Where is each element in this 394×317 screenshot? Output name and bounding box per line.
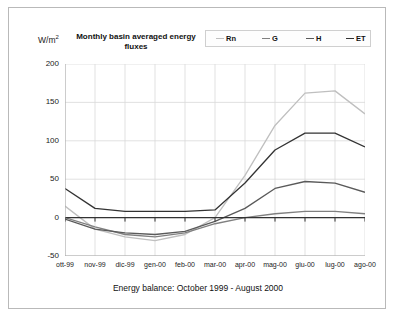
legend-line-icon (216, 38, 224, 39)
y-tick-label: 50 (35, 174, 59, 183)
grid-layer (65, 64, 365, 256)
y-axis-unit-label: W/m2 (38, 34, 59, 45)
x-tick-label: apr-00 (235, 261, 255, 268)
x-tick-label: nov-99 (84, 261, 105, 268)
legend-item-g[interactable]: G (262, 34, 278, 45)
legend-item-label: Rn (226, 34, 236, 43)
y-axis-unit-text: W/m (38, 35, 55, 45)
x-tick-label: ago-00 (354, 261, 376, 268)
legend-item-et[interactable]: ET (346, 34, 366, 45)
plot-area (65, 64, 365, 256)
plot-svg (65, 64, 365, 256)
x-tick-label: dic-99 (115, 261, 134, 268)
legend-line-icon (262, 38, 270, 39)
y-tick-label: 0 (35, 213, 59, 222)
y-axis-unit-exponent: 2 (55, 34, 58, 40)
y-tick-label: 150 (35, 97, 59, 106)
y-tick-label: 200 (35, 59, 59, 68)
figure-frame: W/m2 Monthly basin averaged energy fluxe… (8, 7, 386, 309)
x-tick-label: mar-00 (204, 261, 226, 268)
x-tick-label: gen-00 (144, 261, 166, 268)
x-tick-label: lug-00 (325, 261, 344, 268)
legend-item-h[interactable]: H (306, 34, 321, 45)
legend-line-icon (306, 38, 314, 39)
chart-header: W/m2 Monthly basin averaged energy fluxe… (9, 8, 387, 56)
legend-item-rn[interactable]: Rn (216, 34, 236, 45)
x-tick-label: mag-00 (263, 261, 287, 268)
legend-line-icon (346, 38, 354, 39)
x-tick-label: feb-00 (175, 261, 195, 268)
legend-item-label: ET (356, 34, 366, 43)
x-tick-label: ott-99 (56, 261, 74, 268)
y-tick-label: -50 (35, 251, 59, 260)
legend-item-label: G (272, 34, 278, 43)
legend-item-label: H (316, 34, 321, 43)
figure-caption: Energy balance: October 1999 - August 20… (9, 283, 387, 293)
chart-legend: RnGHET (205, 30, 371, 47)
chart-title: Monthly basin averaged energy fluxes (71, 32, 201, 52)
x-tick-label: giu-00 (295, 261, 314, 268)
y-tick-label: 100 (35, 136, 59, 145)
